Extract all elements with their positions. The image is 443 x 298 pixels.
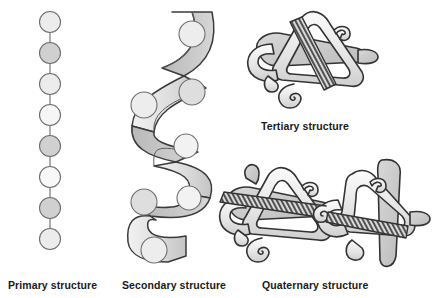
amino-acid-bead [179, 21, 205, 47]
amino-acid-bead [174, 134, 198, 158]
lower-curl [279, 84, 301, 108]
amino-acid-bead [40, 105, 61, 126]
panel-secondary-structure [110, 0, 235, 275]
panel-primary-structure [0, 0, 110, 275]
label-quaternary-structure: Quaternary structure [262, 279, 368, 291]
amino-acid-bead [141, 237, 167, 263]
amino-acid-bead [40, 43, 61, 64]
amino-acid-bead [40, 229, 61, 250]
amino-acid-bead [131, 92, 157, 118]
quaternary-structure-graphic [218, 160, 443, 275]
amino-acid-bead [40, 74, 61, 95]
amino-acid-bead [40, 12, 61, 33]
panel-quaternary-structure [218, 160, 443, 275]
amino-acid-bead [177, 186, 201, 210]
label-tertiary-structure: Tertiary structure [261, 120, 349, 132]
amino-acid-bead [131, 189, 157, 215]
amino-acid-bead [40, 198, 61, 219]
label-primary-structure: Primary structure [8, 279, 97, 291]
top-stub [245, 165, 259, 184]
tertiary-fold [248, 12, 378, 108]
primary-structure-graphic [0, 0, 110, 275]
tertiary-structure-graphic [238, 0, 383, 120]
amino-acid-bead [40, 167, 61, 188]
right-tab [358, 49, 378, 63]
panel-tertiary-structure [238, 0, 383, 120]
lower-curl [247, 238, 269, 262]
secondary-structure-graphic [110, 0, 235, 275]
right-tab [410, 211, 430, 225]
subunit-right [314, 160, 430, 267]
protein-structure-figure: Primary structure Secondary structure Te… [0, 0, 443, 298]
helix-ribbon [128, 12, 214, 262]
amino-acid-bead [179, 79, 205, 105]
bottom-curl [346, 240, 363, 260]
vertical-back-bar [378, 160, 401, 267]
label-secondary-structure: Secondary structure [122, 279, 226, 291]
amino-acid-bead [40, 136, 61, 157]
